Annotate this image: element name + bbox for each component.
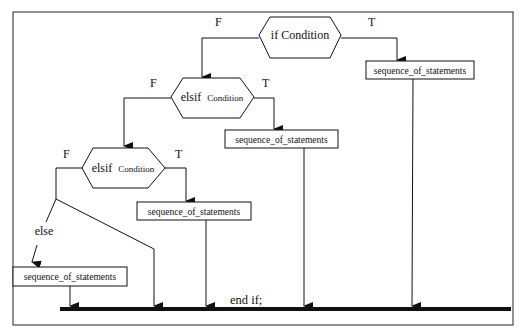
statement-label: sequence_of_statements	[24, 272, 117, 282]
elsif1-keyword: elsif	[181, 90, 202, 104]
elsif1-true-label: T	[262, 76, 270, 90]
end-if-label: end if;	[230, 293, 262, 307]
elsif1-false-connector	[124, 98, 171, 146]
elsif1-false-label: F	[150, 76, 157, 90]
if-true-label: T	[368, 15, 376, 29]
end-if-bar	[60, 307, 511, 311]
statement-box-else: sequence_of_statements	[13, 267, 127, 286]
else-label: else	[35, 224, 54, 238]
if-condition: Condition	[281, 28, 329, 42]
else-connector-top	[46, 199, 56, 222]
if-false-connector	[202, 38, 259, 77]
svg-text:if Condition: if Condition	[271, 28, 329, 42]
elsif2-condition: Condition	[118, 164, 155, 174]
elsif1-decision: elsif Condition	[171, 78, 254, 118]
else-connector-arrow	[32, 245, 37, 262]
statement-box-if: sequence_of_statements	[366, 61, 474, 79]
elsif2-false-connector	[56, 168, 82, 199]
elsif2-false-label: F	[63, 147, 70, 161]
elsif1-true-connector	[254, 98, 274, 129]
if-true-connector	[341, 38, 397, 60]
statement-label: sequence_of_statements	[374, 66, 467, 76]
statement-box-elsif2: sequence_of_statements	[137, 202, 251, 220]
elsif2-true-connector	[165, 168, 186, 201]
statement-box-elsif1: sequence_of_statements	[225, 130, 338, 148]
statement-label: sequence_of_statements	[235, 135, 328, 145]
if-keyword: if	[271, 28, 278, 42]
elsif1-condition: Condition	[207, 93, 244, 103]
elsif2-true-label: T	[175, 147, 183, 161]
stmt-if-to-end	[412, 79, 413, 306]
elsif2-keyword: elsif	[92, 161, 113, 175]
if-false-label: F	[215, 15, 222, 29]
elsif2-decision: elsif Condition	[82, 148, 165, 188]
if-decision: if Condition	[259, 17, 341, 58]
statement-label: sequence_of_statements	[148, 207, 241, 217]
flowchart: if Condition F T sequence_of_statements …	[0, 0, 524, 333]
